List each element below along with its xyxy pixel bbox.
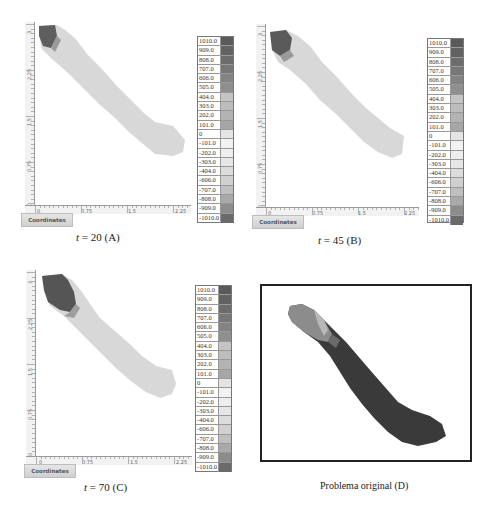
colorbar-swatch: [219, 407, 231, 415]
ruler-tick: [27, 364, 35, 365]
ruler-tick: [262, 141, 265, 142]
ruler-tick: [386, 208, 387, 210]
plot-area[interactable]: [36, 270, 191, 456]
ruler-tick: [31, 42, 34, 43]
ruler-tick: [31, 157, 34, 158]
coordinates-button[interactable]: Coordinates: [21, 213, 73, 227]
ruler-tick: [31, 185, 34, 186]
colorbar-swatch: [451, 188, 463, 196]
colorbar-swatch: [451, 85, 463, 93]
ruler-tick: [275, 208, 276, 210]
colorbar-swatch: [221, 167, 233, 175]
colorbar-row: 606.0: [428, 76, 463, 85]
colorbar-label: 909.0: [196, 295, 219, 303]
colorbar-label: -303.0: [428, 160, 451, 168]
ruler-tick: [32, 336, 35, 337]
ruler-tick: [262, 173, 265, 174]
ruler-tick: [77, 457, 78, 459]
x-tick-label: 2.25: [404, 210, 415, 216]
ruler-tick: [165, 457, 166, 459]
ruler-tick: [59, 457, 60, 459]
ruler-tick: [36, 457, 37, 464]
ruler-tick: [31, 75, 34, 76]
colorbar-swatch: [219, 360, 231, 368]
colorbar-row: -606.0: [428, 178, 463, 187]
colorbar-row: -909.0: [196, 453, 231, 462]
colorbar-swatch: [221, 186, 233, 194]
colorbar-swatch: [219, 342, 231, 350]
ruler-tick: [31, 148, 34, 149]
contour-map: [35, 22, 190, 205]
colorbar-swatch: [221, 111, 233, 119]
colorbar-swatch: [219, 314, 231, 322]
ruler-tick: [31, 176, 34, 177]
ruler-tick: [32, 286, 35, 287]
ruler-tick: [294, 208, 295, 210]
ruler-tick: [32, 438, 35, 439]
ruler-tick: [32, 309, 35, 310]
colorbar-label: -707.0: [198, 186, 221, 194]
panel-c: 3 2.25 1.5 0.75 0 0 0.75 1.5 2.25 Coordi…: [0, 260, 246, 519]
ruler-tick: [367, 208, 368, 210]
ruler-tick: [76, 206, 77, 208]
ruler-tick: [262, 54, 265, 55]
colorbar-label: 808.0: [428, 58, 451, 66]
plot-area[interactable]: [35, 22, 190, 205]
ruler-tick: [123, 457, 124, 459]
ruler-tick: [262, 109, 265, 110]
ruler-tick: [262, 35, 265, 36]
ruler-tick: [303, 208, 304, 210]
ruler-tick: [86, 206, 87, 208]
colorbar-row: 404.0: [428, 95, 463, 104]
ruler-tick: [31, 29, 34, 30]
ruler-tick: [32, 451, 35, 452]
colorbar-label: 808.0: [196, 305, 219, 313]
colorbar-label: -202.0: [428, 151, 451, 159]
ruler-tick: [133, 457, 134, 459]
colorbar-row: 606.0: [196, 323, 231, 332]
colorbar-swatch: [221, 83, 233, 91]
colorbar-label: 606.0: [428, 76, 451, 84]
ruler-tick: [26, 162, 34, 163]
colorbar-swatch: [451, 206, 463, 214]
ruler-tick: [335, 208, 336, 210]
coordinates-button[interactable]: Coordinates: [252, 215, 304, 229]
ruler-tick: [32, 373, 35, 374]
colorbar-row: -101.0: [196, 388, 231, 397]
coordinates-button[interactable]: Coordinates: [24, 464, 76, 478]
colorbar-swatch: [219, 305, 231, 313]
colorbar-swatch: [219, 453, 231, 461]
colorbar-swatch: [219, 286, 231, 294]
colorbar-swatch: [219, 379, 231, 387]
colorbar-swatch: [221, 176, 233, 184]
colorbar-row: -404.0: [196, 416, 231, 425]
colorbar-swatch: [451, 48, 463, 56]
colorbar-row: 404.0: [198, 93, 233, 102]
ruler-tick: [262, 113, 265, 114]
colorbar-row: 707.0: [196, 314, 231, 323]
ruler-tick: [31, 61, 34, 62]
colorbar-swatch: [219, 351, 231, 359]
colorbar-row: 909.0: [198, 46, 233, 55]
colorbar-row: 202.0: [198, 111, 233, 120]
ruler-tick: [257, 72, 265, 73]
colorbar-label: 1010.0: [428, 39, 451, 47]
colorbar-swatch: [219, 425, 231, 433]
colorbar-swatch: [219, 463, 231, 472]
colorbar-row: 909.0: [428, 48, 463, 57]
colorbar-label: 0: [428, 132, 451, 140]
colorbar-swatch: [221, 56, 233, 64]
colorbar-label: 909.0: [198, 46, 221, 54]
ruler-tick: [32, 396, 35, 397]
ruler-tick: [156, 457, 157, 459]
ruler-tick: [32, 332, 35, 333]
ruler-tick: [32, 304, 35, 305]
plot-area[interactable]: [266, 24, 418, 207]
ruler-tick: [262, 159, 265, 160]
colorbar-label: -404.0: [198, 167, 221, 175]
ruler-tick: [160, 457, 161, 459]
ruler-tick: [353, 208, 354, 210]
colorbar-swatch: [451, 123, 463, 131]
ruler-tick: [262, 86, 265, 87]
ruler-tick: [32, 281, 35, 282]
